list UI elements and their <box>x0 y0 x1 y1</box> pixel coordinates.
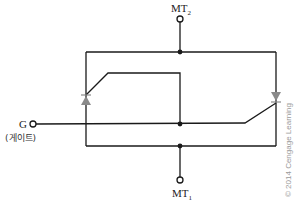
gate-terminal: G (게이트) <box>5 118 36 143</box>
outer-loop <box>86 52 276 146</box>
mt2-label: MT2 <box>171 2 192 17</box>
scr-right-triangle-icon <box>271 92 281 101</box>
mt1-terminal: MT1 <box>172 146 193 202</box>
gate-korean-label: (게이트) <box>5 133 36 143</box>
gate-wire <box>36 103 276 124</box>
scr-right <box>271 92 281 102</box>
scr-left <box>81 95 91 105</box>
mt2-terminal: MT2 <box>171 2 192 52</box>
left-scr-gate-wire <box>86 73 180 124</box>
gate-terminal-circle <box>30 121 36 127</box>
gate-label: G <box>19 118 27 130</box>
junction-dot-top <box>178 50 183 55</box>
copyright-text: © 2014 Cengage Learning <box>284 103 293 197</box>
scr-left-triangle-icon <box>81 96 91 105</box>
mt2-terminal-circle <box>177 16 183 22</box>
triac-circuit-diagram: MT2 G (게이트) MT1 © 2014 Cengage Learni <box>0 0 297 209</box>
mt1-terminal-circle <box>177 177 183 183</box>
mt1-label: MT1 <box>172 187 193 202</box>
